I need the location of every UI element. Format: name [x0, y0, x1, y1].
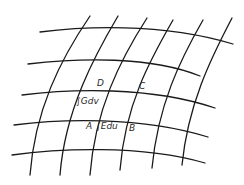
v-curve: [120, 20, 173, 170]
point-label-a: A: [85, 121, 92, 131]
point-label-c: C: [139, 81, 146, 91]
point-label-d: D: [97, 78, 104, 88]
u-curve: [12, 150, 205, 163]
u-curve: [28, 60, 200, 76]
curvilinear-grid-diagram: D C ∫Gdv A ∫Edu B: [0, 0, 244, 185]
v-curve: [182, 18, 232, 165]
integral-gdv-label: ∫Gdv: [76, 96, 99, 106]
u-curve: [22, 91, 215, 108]
integral-edu-label: ∫Edu: [96, 121, 118, 131]
u-curves: [12, 28, 233, 163]
point-label-b: B: [129, 123, 135, 133]
v-curve: [152, 20, 203, 168]
